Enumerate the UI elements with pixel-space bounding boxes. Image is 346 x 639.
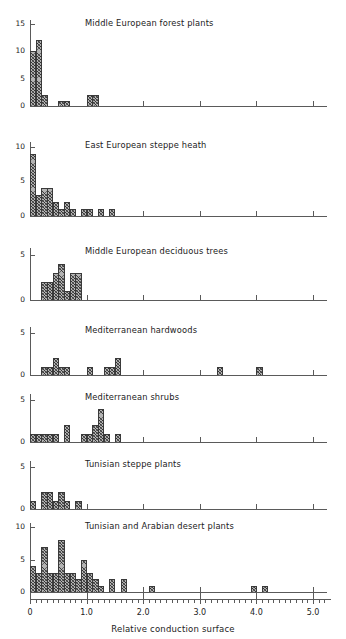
y-axis-tick — [31, 333, 35, 334]
x-axis-major-tick — [200, 593, 201, 604]
x-axis-minor-tick — [98, 599, 99, 603]
x-axis-line — [30, 375, 327, 376]
histogram-bar — [251, 586, 257, 592]
y-axis-label: 10 — [0, 142, 25, 151]
y-axis-label: 15 — [0, 19, 25, 28]
histogram-bar — [64, 367, 70, 375]
histogram-panel: Middle European deciduous trees05 — [0, 246, 346, 316]
x-axis-minor-tick — [290, 599, 291, 603]
x-axis-minor-tick — [70, 599, 71, 603]
x-axis-minor-tick — [92, 599, 93, 603]
x-axis-minor-tick — [251, 599, 252, 603]
y-axis-tick — [31, 255, 35, 256]
histogram-panel: Tunisian steppe plants05 — [0, 459, 346, 525]
x-axis-minor-tick — [53, 599, 54, 603]
y-axis-label: 0 — [0, 437, 25, 446]
x-axis-major-tick — [200, 295, 201, 300]
x-axis-minor-tick — [166, 599, 167, 603]
x-axis-major-tick — [87, 593, 88, 604]
x-axis-major-tick — [256, 593, 257, 604]
x-axis-minor-tick — [222, 599, 223, 603]
y-axis-label: 0 — [0, 587, 25, 596]
x-axis-major-tick — [313, 101, 314, 106]
histogram-panel: Mediterranean hardwoods05 — [0, 325, 346, 391]
panel-title: Mediterranean shrubs — [85, 392, 179, 402]
x-axis: 01.02.03.04.05.0Relative conduction surf… — [0, 599, 346, 639]
x-axis-tick-label: 2.0 — [123, 608, 163, 617]
y-axis-label: 0 — [0, 370, 25, 379]
x-axis-major-tick — [143, 101, 144, 106]
histogram-bar — [92, 95, 98, 106]
x-axis-minor-tick — [149, 599, 150, 603]
x-axis-major-tick — [200, 211, 201, 216]
x-axis-minor-tick — [319, 599, 320, 603]
x-axis-major-tick — [313, 437, 314, 442]
x-axis-minor-tick — [324, 599, 325, 603]
histogram-bar — [64, 501, 70, 509]
histogram-bar — [256, 367, 262, 375]
x-axis-minor-tick — [58, 599, 59, 603]
x-axis-caption: Relative conduction surface — [0, 624, 346, 634]
y-axis-label: 0 — [0, 211, 25, 220]
panel-title: Tunisian and Arabian desert plants — [85, 521, 234, 531]
x-axis-tick-label: 4.0 — [236, 608, 276, 617]
x-axis-line — [30, 300, 327, 301]
histogram-bar — [70, 209, 76, 216]
x-axis-major-tick — [256, 437, 257, 442]
histogram-figure: Middle European forest plants051015East … — [0, 0, 346, 639]
x-axis-major-tick — [313, 593, 314, 604]
x-axis-tick-label: 3.0 — [180, 608, 220, 617]
histogram-bar — [109, 209, 115, 216]
y-axis-label: 5 — [0, 176, 25, 185]
x-axis-major-tick — [143, 211, 144, 216]
y-axis-label: 5 — [0, 555, 25, 564]
x-axis-minor-tick — [262, 599, 263, 603]
x-axis-minor-tick — [47, 599, 48, 603]
x-axis-major-tick — [143, 593, 144, 604]
y-axis-label: 5 — [0, 74, 25, 83]
x-axis-major-tick — [143, 504, 144, 509]
histogram-bar — [149, 586, 155, 592]
histogram-bar — [30, 501, 36, 509]
x-axis-major-tick — [143, 295, 144, 300]
x-axis-minor-tick — [183, 599, 184, 603]
x-axis-minor-tick — [75, 599, 76, 603]
histogram-panel: Mediterranean shrubs05 — [0, 392, 346, 458]
histogram-bar — [98, 209, 104, 216]
x-axis-minor-tick — [273, 599, 274, 603]
panel-title: Middle European deciduous trees — [85, 246, 228, 256]
x-axis-minor-tick — [268, 599, 269, 603]
x-axis-minor-tick — [228, 599, 229, 603]
y-axis-label: 0 — [0, 295, 25, 304]
x-axis-major-tick — [256, 101, 257, 106]
histogram-panel: East European steppe heath0510 — [0, 140, 346, 232]
y-axis-tick — [31, 400, 35, 401]
x-axis-major-tick — [313, 504, 314, 509]
histogram-bar — [64, 101, 70, 107]
histogram-bar — [87, 367, 93, 375]
x-axis-minor-tick — [41, 599, 42, 603]
x-axis-tick-label: 0 — [10, 608, 50, 617]
x-axis-minor-tick — [109, 599, 110, 603]
x-axis-line — [30, 442, 327, 443]
x-axis-major-tick — [200, 587, 201, 592]
x-axis-minor-tick — [307, 599, 308, 603]
x-axis-major-tick — [200, 370, 201, 375]
x-axis-major-tick — [313, 295, 314, 300]
x-axis-minor-tick — [121, 599, 122, 603]
panel-title: Middle European forest plants — [85, 18, 214, 28]
x-axis-minor-tick — [239, 599, 240, 603]
x-axis-major-tick — [200, 504, 201, 509]
x-axis-major-tick — [313, 211, 314, 216]
histogram-bar — [75, 273, 81, 300]
histogram-panel: Middle European forest plants051015 — [0, 18, 346, 122]
x-axis-line — [30, 106, 327, 107]
x-axis-major-tick — [313, 370, 314, 375]
y-axis-label: 5 — [0, 250, 25, 259]
x-axis-minor-tick — [81, 599, 82, 603]
histogram-bar — [115, 434, 121, 442]
histogram-bar — [104, 434, 110, 442]
y-axis-label: 5 — [0, 328, 25, 337]
x-axis-minor-tick — [296, 599, 297, 603]
x-axis-major-tick — [256, 211, 257, 216]
